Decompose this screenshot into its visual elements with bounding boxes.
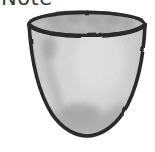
bowl-body <box>29 24 145 137</box>
bowl-sketch-svg <box>0 0 155 152</box>
image-canvas: Note <box>0 0 155 152</box>
bowl-sketch <box>0 0 155 152</box>
body-highlight <box>74 32 126 92</box>
left-blotch <box>44 35 56 59</box>
bottom-pool <box>60 103 100 121</box>
